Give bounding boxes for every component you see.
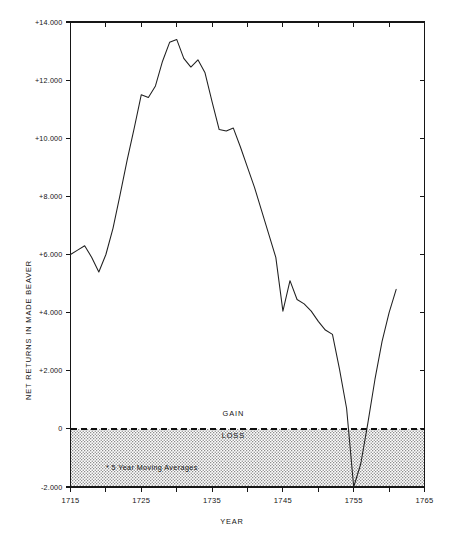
x-tick-label: 1745 xyxy=(274,496,292,505)
loss-label: LOSS xyxy=(222,431,245,440)
loss-band-rect xyxy=(71,429,425,487)
x-tick-label: 1755 xyxy=(345,496,363,505)
x-axis-title: YEAR xyxy=(220,517,244,526)
x-tick-label: 1735 xyxy=(203,496,221,505)
data-series-group xyxy=(71,39,397,487)
y-tick-label: 0 xyxy=(58,424,62,433)
x-axis-top-ticks xyxy=(71,22,425,27)
y-tick-label: +10.000 xyxy=(35,134,63,143)
x-axis-bottom-ticks xyxy=(71,487,425,492)
moving-average-note: * 5 Year Moving Averages xyxy=(106,463,198,472)
y-tick-label: +12.000 xyxy=(35,76,63,85)
y-axis-ticks xyxy=(66,22,425,487)
y-tick-label: +8.000 xyxy=(39,192,62,201)
x-tick-label: 1715 xyxy=(61,496,79,505)
x-tick-label: 1765 xyxy=(415,496,433,505)
y-tick-label: +2.000 xyxy=(39,366,62,375)
gain-label: GAIN xyxy=(223,409,245,418)
y-axis-title: NET RETURNS IN MADE BEAVER xyxy=(24,260,33,400)
loss-shaded-band xyxy=(71,429,425,487)
plot-frame xyxy=(71,22,425,487)
net-returns-line-chart: +14.000+12.000+10.000+8.000+6.000+4.000+… xyxy=(0,0,454,543)
y-tick-label: +14.000 xyxy=(35,18,63,27)
y-tick-label: -2.000 xyxy=(41,483,63,492)
y-tick-label: +4.000 xyxy=(39,308,62,317)
x-tick-label: 1725 xyxy=(132,496,150,505)
series-line-net-returns xyxy=(71,39,397,487)
y-axis-tick-labels: +14.000+12.000+10.000+8.000+6.000+4.000+… xyxy=(35,18,63,492)
x-axis-tick-labels: 171517251735174517551765 xyxy=(61,496,433,505)
y-tick-label: +6.000 xyxy=(39,250,62,259)
chart-figure: +14.000+12.000+10.000+8.000+6.000+4.000+… xyxy=(0,0,454,543)
